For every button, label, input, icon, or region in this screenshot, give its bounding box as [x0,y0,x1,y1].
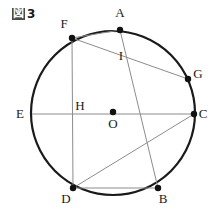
point-marker-o [110,109,116,115]
point-label-a: A [115,5,125,20]
point-label-d: D [61,191,70,206]
point-label-o: O [108,116,117,131]
point-marker-d [70,185,76,191]
chord-D-C [73,114,194,188]
geometry-diagram: AFGCEDBOHI [0,0,219,214]
point-marker-c [191,111,197,117]
point-label-e: E [16,106,24,121]
point-label-b: B [159,191,168,206]
point-label-g: G [193,66,202,81]
point-marker-f [69,35,75,41]
point-labels-group: AFGCEDBOHI [16,5,207,206]
point-marker-a [117,27,123,33]
marked-points-group [69,27,197,191]
point-label-f: F [60,16,67,31]
figure-container: 図3 AFGCEDBOHI [0,0,219,214]
point-label-h: H [75,98,84,113]
point-marker-g [185,76,191,82]
point-label-c: C [199,106,208,121]
point-label-i: I [119,48,123,63]
chord-A-B [120,30,158,188]
chord-F-D [72,38,73,188]
chord-F-A [72,30,120,38]
